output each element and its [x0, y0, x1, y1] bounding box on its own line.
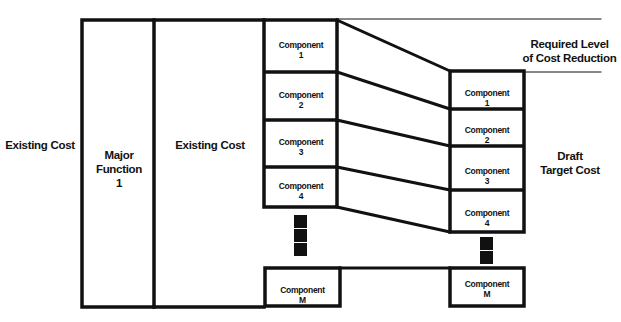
major-function-label: Major Function 1 — [84, 149, 154, 190]
left-component-3: Component 3 — [264, 137, 338, 157]
right-component-4: Component 4 — [450, 208, 524, 228]
connector-lines — [337, 20, 450, 268]
left-component-m: Component M — [265, 285, 340, 305]
right-component-1: Component 1 — [450, 88, 524, 108]
required-reduction-label: Required Level of Cost Reduction — [518, 38, 621, 66]
existing-cost-outer-label: Existing Cost — [0, 139, 80, 153]
left-component-1: Component 1 — [264, 40, 338, 60]
existing-cost-inner-label: Existing Cost — [156, 139, 264, 153]
right-component-2: Component 2 — [450, 125, 524, 145]
draft-target-cost-label: Draft Target Cost — [520, 150, 620, 178]
cost-breakdown-diagram: Existing Cost Major Function 1 Existing … — [0, 0, 621, 322]
existing-cost-box — [154, 20, 264, 307]
left-component-2: Component 2 — [264, 90, 338, 110]
left-component-4: Component 4 — [264, 181, 338, 201]
right-component-3: Component 3 — [450, 166, 524, 186]
right-component-m: Component M — [450, 279, 524, 299]
